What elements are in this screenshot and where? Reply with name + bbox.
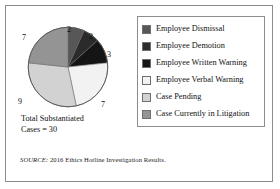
pie-chart-area: 223797 Total Substantiated Cases = 30 — [10, 10, 134, 150]
legend-swatch-icon — [142, 25, 151, 34]
legend-item-label: Case Pending — [156, 93, 201, 101]
legend-swatch-icon — [142, 42, 151, 51]
legend-swatch-icon — [142, 76, 151, 85]
pie-slice-value-label: 2 — [67, 26, 71, 34]
legend-swatch-icon — [142, 93, 151, 102]
pie-slice-value-label: 7 — [101, 101, 105, 109]
pie-chart: 223797 — [27, 26, 109, 108]
legend-item-label: Case Currently in Litigation — [156, 110, 249, 118]
caption-line-1: Total Substantiated — [21, 113, 133, 124]
legend-box: Employee DismissalEmployee DemotionEmplo… — [137, 16, 265, 127]
legend-item: Employee Dismissal — [142, 21, 261, 38]
caption-line-2: Cases = 30 — [21, 124, 133, 135]
legend-item-label: Employee Dismissal — [156, 25, 224, 33]
figure-frame: 223797 Total Substantiated Cases = 30 Em… — [5, 5, 273, 182]
pie-slice-value-label: 7 — [22, 34, 26, 42]
pie-slice-value-label: 3 — [107, 51, 111, 59]
legend-swatch-icon — [142, 110, 151, 119]
pie-slice — [28, 27, 68, 67]
legend-item: Case Currently in Litigation — [142, 106, 261, 123]
legend-list: Employee DismissalEmployee DemotionEmplo… — [142, 21, 261, 123]
legend-item-label: Employee Written Warning — [156, 59, 247, 67]
pie-caption: Total Substantiated Cases = 30 — [21, 113, 133, 135]
legend-item: Employee Demotion — [142, 38, 261, 55]
legend-item: Employee Verbal Warning — [142, 72, 261, 89]
figure-body: 223797 Total Substantiated Cases = 30 Em… — [6, 6, 272, 181]
source-text: 2016 Ethics Hotline Investigation Result… — [48, 156, 165, 163]
pie-chart-svg — [27, 26, 109, 108]
legend-swatch-icon — [142, 59, 151, 68]
pie-slice-value-label: 9 — [18, 98, 22, 106]
pie-slice-value-label: 2 — [89, 33, 93, 41]
legend-item-label: Employee Verbal Warning — [156, 76, 244, 84]
source-label: SOURCE: — [20, 156, 48, 163]
legend-item: Employee Written Warning — [142, 55, 261, 72]
legend-item-label: Employee Demotion — [156, 42, 225, 50]
legend-item: Case Pending — [142, 89, 261, 106]
source-note: SOURCE: 2016 Ethics Hotline Investigatio… — [20, 156, 166, 163]
